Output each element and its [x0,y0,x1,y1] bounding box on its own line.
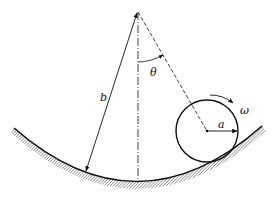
label-b: b [100,91,107,104]
radius-b-arrow [86,13,137,171]
theta-angle-arc [138,55,163,62]
rolling-disk-diagram: b θ ω a [0,0,276,200]
disk-center-dot [206,130,209,133]
line-to-disk-center [138,12,207,131]
label-a: a [218,118,225,131]
label-omega: ω [240,104,249,117]
track-hatching [11,126,266,189]
omega-rotation-arrow [210,95,233,103]
label-theta: θ [150,66,157,79]
